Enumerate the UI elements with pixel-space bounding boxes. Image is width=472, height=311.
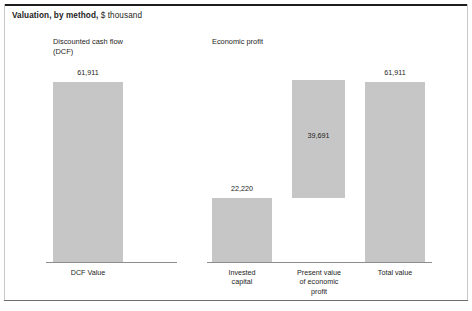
axis-line-left-panel xyxy=(46,262,177,263)
bar-dcf-value[interactable] xyxy=(53,82,123,262)
value-label-total-value: 61,911 xyxy=(365,68,425,77)
chart-plot-area: 61,911 DCF Value 22,220 39,691 61,911 In… xyxy=(0,0,472,311)
category-label-invested-capital: Invested capital xyxy=(209,268,275,287)
category-label-dcf-value: DCF Value xyxy=(48,268,128,277)
bar-invested-capital[interactable] xyxy=(212,198,272,262)
bar-total-value[interactable] xyxy=(365,82,425,262)
value-label-present-value-economic-profit: 39,691 xyxy=(292,131,345,140)
value-label-dcf-value: 61,911 xyxy=(53,68,123,77)
category-label-total-value: Total value xyxy=(362,268,428,277)
exhibit-container: Valuation, by method, $ thousand Discoun… xyxy=(0,0,472,311)
axis-line-right-panel xyxy=(207,262,432,263)
category-label-present-value-economic-profit: Present value of economic profit xyxy=(283,268,355,296)
value-label-invested-capital: 22,220 xyxy=(212,184,272,193)
